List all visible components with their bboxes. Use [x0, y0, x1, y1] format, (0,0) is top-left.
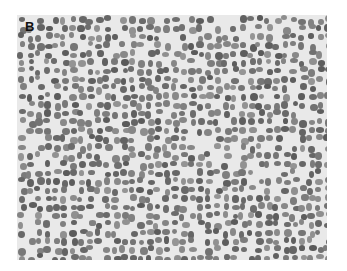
nucleus	[121, 78, 127, 85]
nucleus	[189, 101, 197, 106]
nucleus	[241, 94, 246, 101]
nucleus	[316, 254, 324, 259]
nucleus	[247, 195, 253, 201]
nucleus	[324, 223, 327, 229]
nucleus	[111, 67, 119, 73]
nucleus	[204, 129, 211, 136]
nucleus	[238, 212, 243, 219]
nucleus	[37, 253, 43, 258]
nucleus	[282, 110, 289, 118]
nucleus	[248, 170, 253, 175]
nucleus	[181, 69, 186, 75]
nucleus	[283, 94, 290, 102]
nucleus	[315, 196, 321, 203]
nucleus	[164, 236, 170, 243]
nucleus	[153, 187, 160, 193]
nucleus	[70, 248, 75, 254]
nucleus	[61, 186, 67, 194]
nucleus	[256, 143, 261, 149]
nucleus	[275, 145, 282, 150]
nucleus	[276, 177, 283, 184]
nucleus	[138, 60, 145, 68]
nucleus	[128, 138, 134, 143]
nucleus	[60, 119, 67, 126]
histology-micrograph: B	[17, 15, 327, 260]
nucleus	[248, 136, 254, 141]
nucleus	[224, 145, 230, 151]
nucleus	[95, 228, 100, 235]
nucleus	[87, 143, 92, 151]
nucleus	[188, 237, 194, 243]
nucleus	[308, 78, 315, 85]
nucleus	[137, 69, 144, 76]
nucleus	[105, 93, 111, 99]
nucleus	[54, 238, 60, 244]
nucleus	[255, 248, 262, 253]
nucleus	[256, 152, 263, 159]
nucleus	[77, 214, 83, 219]
panel-label: B	[25, 19, 34, 34]
nucleus	[164, 247, 171, 252]
nucleus	[71, 220, 76, 225]
nucleus	[316, 211, 323, 217]
nucleus	[274, 161, 282, 166]
nucleus	[241, 143, 246, 150]
nucleus	[137, 222, 145, 230]
nucleus	[120, 86, 127, 93]
nucleus	[155, 172, 163, 178]
nucleus	[300, 66, 308, 72]
nucleus	[27, 188, 34, 194]
nucleus	[281, 76, 288, 83]
nucleus	[275, 60, 281, 66]
nucleus	[78, 60, 86, 66]
nucleus	[94, 238, 102, 244]
nucleus	[103, 41, 110, 48]
nucleus	[224, 111, 230, 119]
nucleus	[284, 222, 290, 228]
nucleus	[181, 231, 188, 237]
nucleus	[111, 197, 118, 203]
nucleus	[104, 102, 110, 109]
nucleus	[325, 194, 327, 201]
nucleus	[27, 153, 33, 160]
nucleus	[148, 180, 156, 185]
nucleus	[315, 161, 322, 168]
nucleus	[181, 256, 189, 260]
nucleus	[139, 34, 147, 40]
nucleus	[207, 43, 214, 50]
nucleus	[197, 168, 204, 175]
nucleus	[60, 257, 66, 260]
nucleus	[20, 41, 25, 46]
nucleus	[155, 256, 163, 260]
nucleus	[173, 67, 179, 74]
nucleus	[214, 245, 222, 252]
nucleus	[180, 53, 186, 60]
nucleus	[284, 237, 289, 243]
nucleus	[174, 127, 179, 133]
nucleus	[191, 50, 199, 55]
nucleus	[309, 222, 314, 228]
nucleus	[264, 256, 270, 260]
nucleus	[264, 84, 271, 89]
nucleus	[326, 43, 327, 48]
nucleus	[315, 187, 320, 192]
nucleus	[122, 112, 129, 118]
nucleus	[274, 126, 281, 133]
nucleus	[122, 25, 128, 31]
nucleus	[103, 117, 110, 123]
nucleus	[77, 25, 85, 32]
nucleus	[137, 177, 142, 183]
nucleus	[239, 127, 247, 134]
nucleus	[29, 238, 35, 245]
nucleus	[196, 41, 204, 48]
nucleus	[290, 58, 298, 63]
nucleus	[179, 214, 184, 221]
nucleus	[292, 255, 297, 260]
nucleus	[45, 171, 51, 177]
nucleus	[315, 205, 321, 211]
nucleus	[191, 256, 196, 260]
nucleus	[87, 86, 94, 92]
nucleus	[26, 171, 32, 179]
nucleus	[230, 228, 236, 236]
nucleus	[255, 231, 262, 237]
